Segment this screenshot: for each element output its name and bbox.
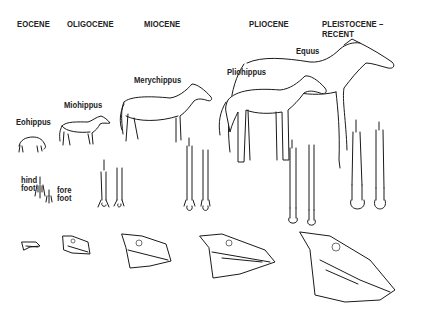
eohippus-body-illustration <box>19 137 46 152</box>
miohippus-feet-illustration <box>98 160 124 207</box>
eohippus-feet-illustration <box>35 177 52 203</box>
equus-feet-illustration <box>350 120 385 209</box>
equus-skull-illustration <box>300 232 395 302</box>
miohippus-body-illustration <box>60 116 110 145</box>
pliohippus-feet-illustration <box>289 140 316 225</box>
illustrations <box>0 0 423 314</box>
merychippus-body-illustration <box>120 84 211 142</box>
horse-evolution-diagram: EOCENE OLIGOCENE MIOCENE PLIOCENE PLEIST… <box>0 0 423 314</box>
merychippus-skull-illustration <box>122 234 171 268</box>
pliohippus-skull-illustration <box>200 234 275 278</box>
merychippus-feet-illustration <box>184 138 210 211</box>
eohippus-skull-illustration <box>22 242 40 250</box>
pliohippus-body-illustration <box>219 76 326 162</box>
miohippus-skull-illustration <box>63 236 90 254</box>
